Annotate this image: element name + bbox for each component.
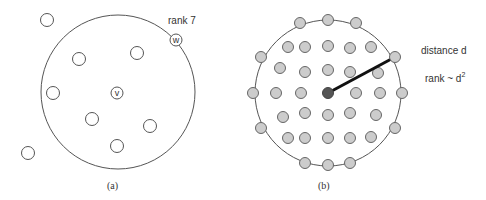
- grid-node: [366, 132, 377, 143]
- grid-node: [283, 133, 294, 144]
- grid-node: [295, 18, 306, 29]
- grid-node: [283, 42, 294, 53]
- node-inside: [144, 120, 157, 133]
- panel-b-radius-end-node: [390, 52, 401, 63]
- panel-a-caption: (a): [107, 180, 118, 192]
- grid-node: [300, 42, 311, 53]
- node-inside: [86, 113, 99, 126]
- grid-node: [323, 41, 334, 52]
- grid-node: [323, 160, 334, 171]
- panel-a-target-node: w: [170, 34, 182, 46]
- grid-node: [323, 65, 334, 76]
- grid-node: [296, 88, 307, 99]
- panel-a-nodes: [22, 14, 157, 160]
- grid-node: [345, 133, 356, 144]
- grid-node: [248, 88, 259, 99]
- rank-7-label: rank 7: [168, 15, 196, 26]
- grid-node: [351, 88, 362, 99]
- node-inside: [111, 140, 124, 153]
- node-outside: [22, 147, 35, 160]
- grid-node: [323, 15, 334, 26]
- panel-b-caption: (b): [318, 180, 330, 192]
- distance-d-line: [328, 57, 395, 93]
- grid-node: [300, 158, 311, 169]
- grid-node: [351, 18, 362, 29]
- grid-node: [390, 123, 401, 134]
- grid-node: [345, 108, 356, 119]
- grid-node: [278, 112, 289, 123]
- grid-node: [345, 158, 356, 169]
- grid-node: [256, 52, 267, 63]
- grid-node: [345, 67, 356, 78]
- node-w-label: w: [172, 35, 180, 45]
- rank-d-squared-label: rank ~ d2: [425, 71, 465, 84]
- grid-node: [345, 43, 356, 54]
- grid-node: [323, 110, 334, 121]
- node-outside: [41, 14, 54, 27]
- panel-b: distance d rank ~ d2 (b): [248, 15, 467, 193]
- exponent-text: 2: [461, 71, 465, 78]
- grid-node: [375, 88, 386, 99]
- rank-d-text: rank ~ d: [425, 73, 461, 84]
- panel-a-center-node: v: [111, 87, 123, 99]
- node-inside: [47, 87, 60, 100]
- grid-node: [371, 110, 382, 121]
- node-inside: [73, 53, 86, 66]
- grid-node: [300, 67, 311, 78]
- diagram-canvas: v w rank 7 (a) distance d rank ~ d2 (b): [0, 0, 486, 200]
- node-inside: [131, 47, 144, 60]
- grid-node: [271, 88, 282, 99]
- grid-node: [397, 88, 408, 99]
- panel-a: v w rank 7 (a): [22, 14, 197, 193]
- grid-node: [300, 108, 311, 119]
- panel-b-center-node: [323, 88, 334, 99]
- grid-node: [256, 123, 267, 134]
- grid-node: [275, 63, 286, 74]
- grid-node: [323, 133, 334, 144]
- node-v-label: v: [115, 88, 120, 98]
- grid-node: [366, 42, 377, 53]
- distance-d-label: distance d: [421, 45, 467, 56]
- grid-node: [300, 133, 311, 144]
